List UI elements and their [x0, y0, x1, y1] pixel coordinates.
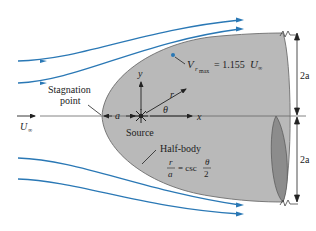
break-mark-bottom — [280, 200, 298, 206]
y-axis-label: y — [137, 68, 143, 79]
eq-two: 2 — [204, 169, 209, 179]
dim-lower-label: 2a — [300, 154, 310, 165]
r-label: r — [170, 89, 174, 100]
vmax-point — [171, 53, 175, 57]
x-axis-label: x — [196, 111, 202, 122]
diagram-canvas: V r max = 1.155 U ∞ Stagnation point U ∞… — [0, 0, 316, 231]
eq-theta: θ — [205, 157, 210, 167]
dim-upper-label: 2a — [300, 70, 310, 81]
freestream-sub: ∞ — [28, 127, 32, 133]
stagnation-label-1: Stagnation — [48, 84, 91, 95]
freestream-U: U — [20, 121, 28, 132]
stagnation-label-2: point — [60, 95, 81, 106]
source-label: Source — [126, 127, 154, 138]
source-icon — [134, 109, 148, 123]
vmax-eq: = 1.155 — [214, 59, 245, 70]
vmax-subsub: max — [199, 68, 209, 74]
dimension-lines — [295, 33, 300, 202]
theta-label: θ — [163, 104, 168, 115]
eq-r: r — [169, 157, 173, 167]
vmax-Usub: ∞ — [258, 65, 262, 71]
stagnation-leader — [88, 105, 101, 115]
eq-a: a — [168, 169, 173, 179]
vmax-sub: r — [195, 65, 198, 73]
a-label: a — [115, 110, 120, 121]
eq-csc: = csc — [178, 163, 197, 173]
half-body-diagram: V r max = 1.155 U ∞ Stagnation point U ∞… — [0, 0, 316, 231]
half-body-label: Half-body — [160, 143, 201, 154]
